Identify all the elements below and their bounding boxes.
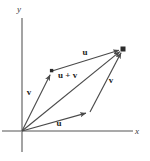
vector-label-v-left: v	[27, 87, 32, 97]
vector-label-u-bottom: u	[56, 118, 61, 128]
vector-addition-figure: x y v u u v u + v	[0, 0, 150, 161]
vector-v-line	[22, 75, 50, 131]
vertex-marker-v-tip	[50, 69, 53, 72]
vector-u-line	[22, 113, 86, 131]
vector-diagram-canvas: x y v u u v u + v	[0, 0, 150, 161]
vector-label-v-right: v	[109, 75, 114, 85]
vector-v-right-line	[90, 53, 121, 112]
y-axis-label: y	[16, 4, 21, 14]
vector-u-plus-v-line	[22, 52, 120, 131]
vector-label-u-top: u	[82, 47, 87, 57]
vector-label-u-plus-v: u + v	[58, 70, 78, 80]
x-axis-label: x	[134, 126, 139, 136]
vertex-marker-sum	[121, 47, 126, 52]
